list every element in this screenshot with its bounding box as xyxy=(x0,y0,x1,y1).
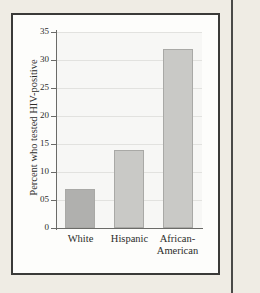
y-axis-title: Percent who tested HIV-positive xyxy=(28,48,39,208)
x-axis-category-label: African-American xyxy=(149,233,206,257)
y-axis-tick-label: 0 xyxy=(29,223,49,232)
bar xyxy=(65,189,95,228)
y-axis-tick-mark xyxy=(51,60,56,61)
x-axis-category-label-line: American xyxy=(149,245,206,257)
page-margin-rule xyxy=(231,0,233,293)
bar xyxy=(114,150,144,228)
y-axis-tick-mark xyxy=(51,32,56,33)
y-axis-line xyxy=(56,30,57,230)
y-axis-tick-mark xyxy=(51,228,56,229)
x-axis-line xyxy=(56,228,203,229)
gridline xyxy=(56,32,202,33)
bar-chart: 005101520253035 Percent who tested HIV-p… xyxy=(13,15,218,273)
y-axis-tick-mark xyxy=(51,200,56,201)
bar xyxy=(163,49,193,228)
y-axis-tick-mark xyxy=(51,172,56,173)
y-axis-tick-mark xyxy=(51,116,56,117)
y-axis-tick-mark xyxy=(51,88,56,89)
x-axis-category-label-line: African- xyxy=(149,233,206,245)
y-axis-tick-label: 35 xyxy=(29,27,49,36)
figure-card: 005101520253035 Percent who tested HIV-p… xyxy=(11,13,220,275)
y-axis-tick-mark xyxy=(51,144,56,145)
